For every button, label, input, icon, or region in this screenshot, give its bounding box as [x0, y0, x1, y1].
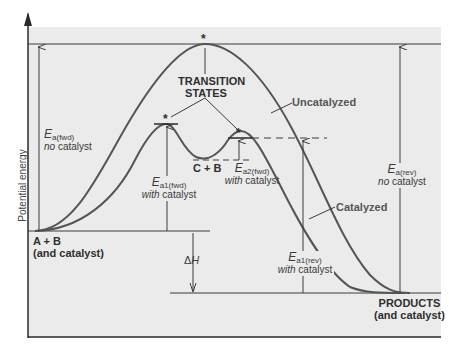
catalyzed-label: Catalyzed: [336, 202, 387, 214]
y-axis-label: Potential energy: [17, 136, 28, 236]
products-label: PRODUCTS (and catalyst): [374, 298, 445, 321]
uncatalyzed-label: Uncatalyzed: [292, 97, 356, 109]
ea2-fwd-label: Ea2(fwd) with catalyst: [222, 162, 282, 187]
ts-star-top: *: [201, 33, 206, 46]
transition-states-label: TRANSITION STATES: [178, 76, 234, 99]
ea-rev-label: Ea(rev) no catalyst: [372, 163, 432, 188]
ea1-rev-label: Ea1(rev) with catalyst: [276, 251, 334, 276]
ea-fwd-label: Ea(fwd) no catalyst: [44, 128, 92, 153]
reactants-label: A + B (and catalyst): [33, 236, 104, 259]
ts-star-1: *: [163, 113, 168, 126]
y-axis-arrow-icon: [24, 12, 32, 26]
ts-star-2: *: [236, 127, 241, 140]
delta-h-label: ΔH: [184, 255, 199, 267]
ea1-fwd-label: Ea1(fwd) with catalyst: [141, 176, 197, 201]
intermediate-label: C + B: [193, 163, 221, 175]
